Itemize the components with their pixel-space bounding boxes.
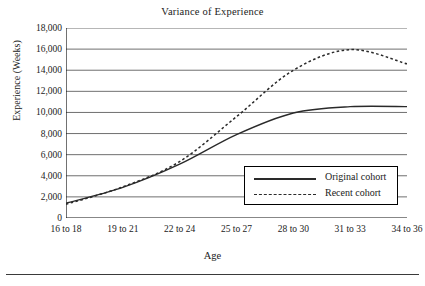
legend-item-original-cohort: Original cohort xyxy=(245,171,397,187)
y-tick-16000: 16,000 xyxy=(36,44,62,54)
legend-label: Recent cohort xyxy=(325,187,381,198)
y-tick-8000: 8,000 xyxy=(41,129,62,139)
x-tick-19-to-21: 19 to 21 xyxy=(107,224,138,234)
x-axis-label: Age xyxy=(0,250,425,261)
y-tick-10000: 10,000 xyxy=(36,107,62,117)
y-tick-12000: 12,000 xyxy=(36,86,62,96)
x-axis-tick-labels: 16 to 1819 to 2122 to 2425 to 2728 to 30… xyxy=(66,224,407,240)
x-tick-28-to-30: 28 to 30 xyxy=(278,224,309,234)
x-tick-16-to-18: 16 to 18 xyxy=(50,224,81,234)
y-tick-6000: 6,000 xyxy=(41,150,62,160)
x-tick-34-to-36: 34 to 36 xyxy=(391,224,422,234)
y-tick-14000: 14,000 xyxy=(36,65,62,75)
y-tick-18000: 18,000 xyxy=(36,23,62,33)
y-tick-0: 0 xyxy=(57,213,62,223)
chart-legend: Original cohortRecent cohort xyxy=(244,166,398,205)
chart-title: Variance of Experience xyxy=(0,6,425,17)
y-axis-tick-labels: 18,00016,00014,00012,00010,0008,0006,000… xyxy=(0,28,62,218)
legend-key-dotted xyxy=(254,194,316,195)
chart-figure: Variance of Experience Experience (Weeks… xyxy=(0,0,425,286)
legend-item-recent-cohort: Recent cohort xyxy=(245,187,397,203)
x-tick-25-to-27: 25 to 27 xyxy=(221,224,252,234)
y-tick-4000: 4,000 xyxy=(41,171,62,181)
y-tick-2000: 2,000 xyxy=(41,192,62,202)
legend-label: Original cohort xyxy=(325,171,386,182)
figure-bottom-rule xyxy=(6,274,419,275)
legend-key-solid xyxy=(254,178,316,180)
x-tick-31-to-33: 31 to 33 xyxy=(335,224,366,234)
x-tick-22-to-24: 22 to 24 xyxy=(164,224,195,234)
